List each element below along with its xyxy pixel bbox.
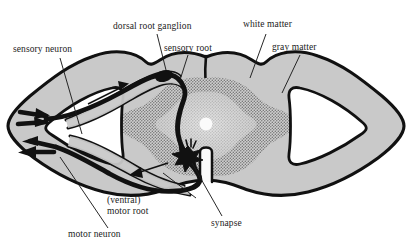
label-white-matter: white matter [243,19,292,30]
central-canal [200,118,213,131]
label-sensory-neuron: sensory neuron [13,44,72,55]
label-sensory-root: sensory root [164,43,212,54]
label-synapse: synapse [211,218,242,229]
label-motor-root: (ventral) motor root [107,195,148,217]
label-motor-root-line2: motor root [107,206,148,217]
label-motor-neuron: motor neuron [68,229,121,240]
spinal-cord-reflex-arc-figure: sensory neuron dorsal root ganglion sens… [0,0,412,250]
label-gray-matter: gray matter [272,42,317,53]
diagram-canvas [0,0,412,250]
label-motor-root-line1: (ventral) [107,195,148,206]
label-dorsal-root-ganglion: dorsal root ganglion [113,21,192,32]
